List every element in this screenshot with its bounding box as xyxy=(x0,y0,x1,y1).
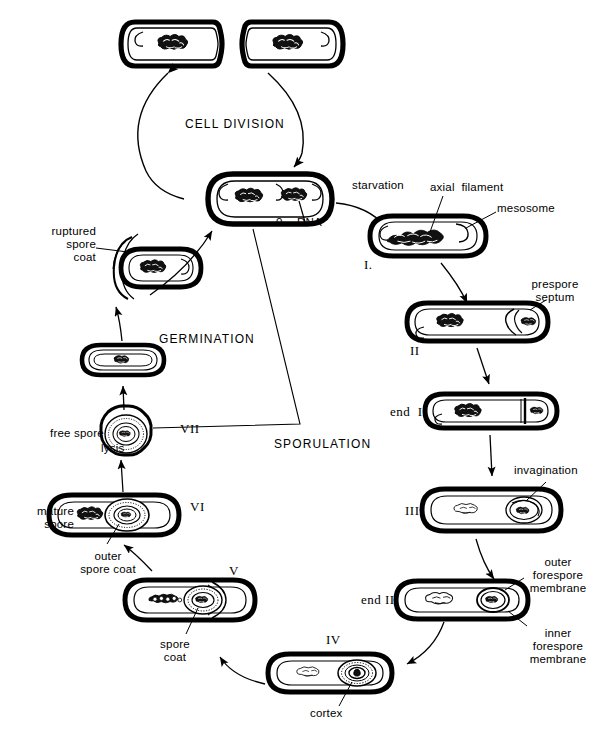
diagram-canvas xyxy=(0,0,601,738)
origin-label: 0 xyxy=(276,216,283,229)
sporulation-germination-diagram: CELL DIVISION GERMINATION SPORULATION st… xyxy=(0,0,601,738)
cell-division-left-arrow xyxy=(138,73,184,199)
spore-coat-label: spore coat xyxy=(152,638,198,664)
end-iii-to-iv-arrow xyxy=(407,622,444,664)
dna-label: DNA xyxy=(297,216,322,229)
stage-ii-cell xyxy=(407,300,548,341)
prespore-septum-label: prespore septum xyxy=(524,278,586,304)
stage-iv-numeral: IV xyxy=(326,633,341,646)
stage-ii-to-end-ii-arrow xyxy=(477,348,489,384)
dividing-cell xyxy=(121,22,343,66)
stage-iv-cell xyxy=(268,654,392,706)
cortex-label: cortex xyxy=(310,707,343,720)
free-spore-label: free spore xyxy=(50,427,104,440)
stage-ii-numeral: II xyxy=(410,344,420,357)
stage-vi-numeral: VI xyxy=(190,500,205,513)
inner-forespore-membrane-label: inner forespore membrane xyxy=(523,627,593,666)
stage-i-cell xyxy=(370,196,496,256)
starvation-label: starvation xyxy=(352,179,404,192)
stage-iii-to-end-iii-arrow xyxy=(476,539,494,579)
end-ii-numeral: end II xyxy=(390,405,427,418)
stage-iii-numeral: III xyxy=(405,504,420,517)
germination-arrow-2 xyxy=(116,307,122,341)
stage-v-numeral: V xyxy=(229,564,239,577)
end-iii-numeral: end III xyxy=(361,593,400,606)
lysis-label: lysis xyxy=(101,442,124,455)
mesosome-label: mesosome xyxy=(497,202,555,215)
mature-spore-label: mature spore xyxy=(16,505,74,531)
stage-iv-to-v-arrow xyxy=(220,657,265,684)
ruptured-spore-coat-label: ruptured spore coat xyxy=(10,225,96,264)
sporulation-label: SPORULATION xyxy=(274,438,371,451)
stage-iii-cell xyxy=(422,482,561,531)
stage-vii-numeral: VII xyxy=(180,422,200,435)
outer-forespore-membrane-label: outer forespore membrane xyxy=(523,556,593,595)
end-ii-cell xyxy=(425,394,557,428)
stage-v-cell xyxy=(125,580,255,634)
cell-division-label: CELL DIVISION xyxy=(185,118,285,131)
lysis-arrow xyxy=(121,460,123,492)
axial-filament-label: axial filament xyxy=(430,181,503,194)
end-iii-cell xyxy=(396,578,528,626)
germination-label: GERMINATION xyxy=(159,333,255,346)
ruptured-spore-cell xyxy=(96,234,201,299)
germinating-spore xyxy=(82,345,164,375)
end-ii-to-iii-arrow xyxy=(490,435,492,476)
outer-spore-coat-label: outer spore coat xyxy=(62,550,154,576)
stage-i-to-ii-arrow xyxy=(441,263,467,303)
invagination-label: invagination xyxy=(514,464,578,477)
stage-i-numeral: I. xyxy=(364,258,373,271)
